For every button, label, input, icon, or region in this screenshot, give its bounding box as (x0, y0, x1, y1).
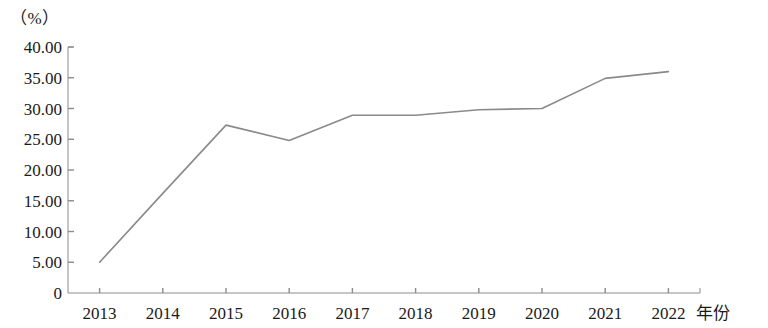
x-tick-label: 2016 (272, 305, 306, 322)
x-tick-label: 2018 (399, 305, 433, 322)
x-axis-tick-labels: 2013201420152016201720182019202020212022 (0, 0, 768, 328)
x-tick-label: 2014 (146, 305, 180, 322)
x-tick-label: 2017 (335, 305, 369, 322)
x-axis-name: 年份 (696, 305, 730, 322)
x-tick-label: 2015 (209, 305, 243, 322)
x-tick-label: 2021 (588, 305, 622, 322)
line-chart: （%） 40.0035.0030.0025.0020.0015.0010.005… (0, 0, 768, 328)
x-tick-label: 2020 (525, 305, 559, 322)
x-tick-label: 2022 (651, 305, 685, 322)
x-tick-label: 2019 (462, 305, 496, 322)
x-tick-label: 2013 (83, 305, 117, 322)
